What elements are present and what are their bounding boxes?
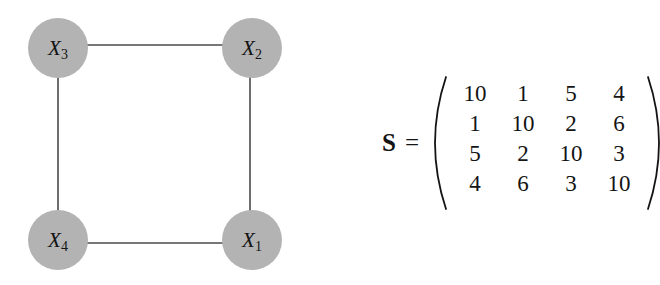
graph-diagram: X3 X2 X4 X1 xyxy=(0,0,330,285)
graph-panel: X3 X2 X4 X1 xyxy=(0,0,330,285)
matrix-cell: 2 xyxy=(517,142,529,165)
graph-edges xyxy=(58,45,252,243)
matrix-cell: 1 xyxy=(469,112,481,135)
left-parenthesis xyxy=(432,75,449,211)
graph-node-x3[interactable]: X3 xyxy=(28,18,88,78)
matrix-cell: 3 xyxy=(565,172,577,195)
matrix-grid: 10 1 5 4 1 10 2 6 5 2 10 3 4 6 3 10 xyxy=(449,75,645,211)
matrix-cell: 1 xyxy=(517,82,529,105)
matrix-cell: 5 xyxy=(469,142,481,165)
matrix-cell: 2 xyxy=(565,112,577,135)
right-parenthesis xyxy=(645,75,660,211)
matrix-cell: 4 xyxy=(469,172,481,195)
matrix-name-label: S xyxy=(382,130,396,155)
matrix-equation: S = 10 1 5 4 1 10 2 6 5 xyxy=(382,75,660,211)
graph-node-x2[interactable]: X2 xyxy=(222,18,282,78)
matrix-body: 10 1 5 4 1 10 2 6 5 2 10 3 4 6 3 10 xyxy=(432,75,660,211)
matrix-panel: S = 10 1 5 4 1 10 2 6 5 xyxy=(330,0,660,285)
matrix-cell: 10 xyxy=(512,112,535,135)
matrix-cell: 10 xyxy=(560,142,583,165)
matrix-cell: 6 xyxy=(517,172,529,195)
matrix-cell: 3 xyxy=(613,142,625,165)
equals-sign: = xyxy=(405,130,419,155)
graph-node-x1[interactable]: X1 xyxy=(222,210,282,270)
matrix-cell: 6 xyxy=(613,112,625,135)
matrix-cell: 10 xyxy=(464,82,487,105)
matrix-cell: 4 xyxy=(613,82,625,105)
matrix-cell: 5 xyxy=(565,82,577,105)
graph-node-x4[interactable]: X4 xyxy=(28,210,88,270)
matrix-cell: 10 xyxy=(608,172,631,195)
figure-root: X3 X2 X4 X1 xyxy=(0,0,660,285)
